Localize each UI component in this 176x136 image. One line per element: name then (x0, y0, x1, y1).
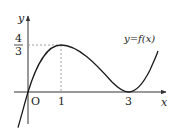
x-axis-label: x (161, 96, 168, 109)
function-label: y=f(x) (123, 33, 155, 44)
y-tick-denominator: 3 (15, 45, 22, 58)
y-tick-numerator: 4 (15, 32, 22, 45)
x-tick-3: 3 (125, 95, 132, 108)
y-axis-label: y (17, 12, 25, 25)
origin-label: O (31, 95, 40, 108)
function-curve (18, 45, 158, 128)
x-tick-1: 1 (58, 95, 65, 108)
function-graph: y x O 1 3 4 3 y=f(x) (0, 0, 176, 136)
